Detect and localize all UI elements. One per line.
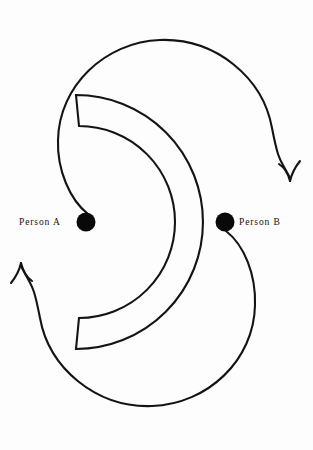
- person-a-dot: [77, 213, 96, 232]
- upper-arc-arrowhead-barb-icon: [290, 161, 300, 181]
- lower-path-arc: [21, 231, 255, 406]
- path-diagram-canvas: Person A Person B: [0, 0, 313, 450]
- person-a-label: Person A: [19, 218, 61, 228]
- lower-arc-arrowhead-barb-icon: [11, 263, 21, 283]
- person-b-label: Person B: [239, 218, 281, 228]
- person-b-dot: [216, 213, 235, 232]
